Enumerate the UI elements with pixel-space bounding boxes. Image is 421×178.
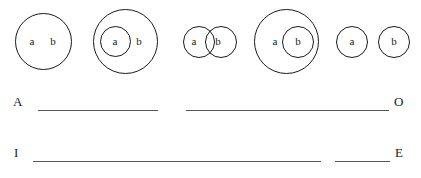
label-a: a: [109, 36, 121, 47]
figure-single-circle-both-terms[interactable]: a b: [15, 0, 73, 86]
figure-b-inside-a[interactable]: a b: [254, 0, 320, 86]
row-letter-e: E: [395, 146, 403, 160]
euler-diagram-row: a b a b a b a b a b: [0, 0, 421, 86]
label-a: a: [269, 36, 281, 47]
answer-row-a-o: A O: [0, 92, 421, 118]
answer-blank-o[interactable]: [186, 110, 389, 111]
label-b: b: [133, 36, 145, 47]
figure-a-overlaps-b[interactable]: a b: [183, 0, 238, 86]
answer-row-i-e: I E: [0, 143, 421, 169]
answer-blank-i[interactable]: [33, 161, 321, 162]
answer-blank-e[interactable]: [335, 161, 390, 162]
label-b: b: [388, 36, 400, 47]
figure-a-disjoint-b[interactable]: a b: [336, 0, 411, 86]
row-letter-o: O: [394, 95, 403, 109]
label-b: b: [47, 36, 59, 47]
outer-circle: [15, 13, 72, 70]
label-a: a: [26, 36, 38, 47]
label-b: b: [212, 36, 224, 47]
row-letter-i: I: [14, 146, 18, 160]
figure-a-inside-b[interactable]: a b: [93, 0, 159, 86]
label-a: a: [346, 36, 358, 47]
answer-blank-a[interactable]: [38, 110, 158, 111]
label-b: b: [292, 36, 304, 47]
row-letter-a: A: [13, 95, 22, 109]
label-a: a: [188, 36, 200, 47]
